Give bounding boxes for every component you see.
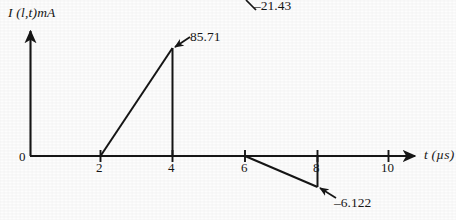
peak-callout-arrow [175,37,190,47]
current-waveform-figure: I (l,t)mA t (µs) 0 2 4 6 8 10 85.71 –6.1… [0,0,456,220]
peak-value-label: 85.71 [190,30,220,44]
waveform-trace [101,48,318,187]
x-axis-title: t (µs) [424,148,454,162]
x-tick-label-10: 10 [381,161,394,174]
segment-falling-ramp [245,156,318,187]
y-axis-title: I (l,t)mA [8,6,56,20]
segment-rising-ramp [101,48,173,156]
x-tick-label-4: 4 [168,161,175,174]
clipped-value-label: –21.43 [254,0,291,13]
plot-canvas [0,0,456,220]
x-tick-label-2: 2 [96,161,103,174]
origin-label: 0 [19,150,26,163]
x-tick-label-6: 6 [241,161,248,174]
x-tick-label-8: 8 [313,161,320,174]
trough-value-label: –6.122 [334,196,371,210]
